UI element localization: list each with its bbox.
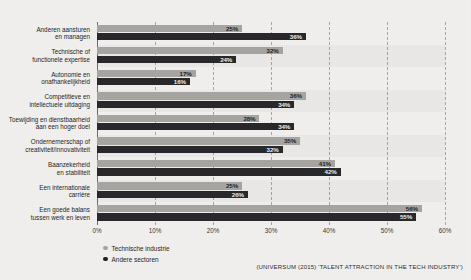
plot-area: 25%36%32%24%17%16%36%34%28%34%35%32%41%4… <box>97 22 445 225</box>
category-label-line: tussen werk en leven <box>31 214 90 222</box>
category-label: Technische offunctionele expertise <box>0 45 93 68</box>
category-label: Een internationalecarrière <box>0 180 93 203</box>
category-label-line: en managen <box>55 33 90 41</box>
legend-swatch-icon <box>103 246 108 251</box>
source-citation: (UNIVERSUM (2015) 'TALENT ATTRACTION IN … <box>256 264 463 270</box>
bar-value-label: 24% <box>220 56 232 63</box>
x-tick-label: 0% <box>92 227 101 234</box>
category-label-line: Competitieve en <box>44 93 90 101</box>
category-label-line: onafhankelijkheid <box>41 78 90 86</box>
category-label-line: Ondernemerschap of <box>31 138 90 146</box>
bar-value-label: 34% <box>278 101 290 108</box>
category-label: Anderen aansturenen managen <box>0 22 93 45</box>
bar-light <box>97 137 300 144</box>
bar-value-label: 17% <box>180 70 192 77</box>
category-label-line: Technische of <box>51 48 90 56</box>
bar-value-label: 36% <box>290 92 302 99</box>
category-label-line: Een internationale <box>39 184 90 192</box>
bar-rows: 25%36%32%24%17%16%36%34%28%34%35%32%41%4… <box>97 22 445 225</box>
category-label-line: aan een hoger doel <box>36 123 90 131</box>
x-tick-label: 10% <box>149 227 162 234</box>
bar-value-label: 32% <box>267 47 279 54</box>
gridline-60 <box>445 22 446 225</box>
category-label: Baanzekerheiden stabiliteit <box>0 157 93 180</box>
chart-legend: Technische industrieAndere sectoren <box>103 243 170 265</box>
bar-row: 25%26% <box>97 180 445 203</box>
bar-dark <box>97 168 341 175</box>
bar-light <box>97 182 242 189</box>
x-tick-label: 20% <box>207 227 220 234</box>
category-label: Competitieve enintellectuele uitdaging <box>0 90 93 113</box>
bar-value-label: 25% <box>226 182 238 189</box>
bar-row: 56%55% <box>97 202 445 225</box>
bar-light <box>97 160 335 167</box>
bar-value-label: 56% <box>406 205 418 212</box>
bar-row: 25%36% <box>97 22 445 45</box>
bar-value-label: 26% <box>232 191 244 198</box>
bar-light <box>97 115 259 122</box>
x-tick-label: 40% <box>323 227 336 234</box>
bar-light <box>97 92 306 99</box>
x-tick-label: 60% <box>439 227 452 234</box>
legend-item[interactable]: Technische industrie <box>103 243 170 253</box>
bar-value-label: 25% <box>226 25 238 32</box>
legend-swatch-icon <box>103 257 108 262</box>
legend-item[interactable]: Andere sectoren <box>103 254 170 264</box>
bar-light <box>97 47 283 54</box>
bar-value-label: 32% <box>267 146 279 153</box>
bar-chart: Anderen aansturenen managenTechnische of… <box>0 0 471 280</box>
category-label: Ondernemerschap ofcreativiteit/innovativ… <box>0 135 93 158</box>
bar-value-label: 41% <box>319 160 331 167</box>
category-label-line: intellectuele uitdaging <box>29 101 90 109</box>
x-tick-label: 30% <box>265 227 278 234</box>
category-label-line: Toewijding en dienstbaarheid <box>9 116 90 124</box>
bar-dark <box>97 213 416 220</box>
category-axis-labels: Anderen aansturenen managenTechnische of… <box>0 22 93 225</box>
bar-dark <box>97 33 306 40</box>
category-label-line: Autonomie en <box>51 71 90 79</box>
bar-value-label: 28% <box>243 115 255 122</box>
bar-row: 35%32% <box>97 135 445 158</box>
bar-value-label: 36% <box>290 33 302 40</box>
bar-row: 32%24% <box>97 45 445 68</box>
bar-row: 36%34% <box>97 90 445 113</box>
bar-dark <box>97 56 236 63</box>
category-label-line: Een goede balans <box>39 206 90 214</box>
category-label-line: carrière <box>69 191 90 199</box>
bar-dark <box>97 191 248 198</box>
legend-label: Technische industrie <box>112 245 170 252</box>
x-tick-label: 50% <box>381 227 394 234</box>
x-axis-ticks: 0%10%20%30%40%50%60% <box>97 227 445 239</box>
category-label: Een goede balanstussen werk en leven <box>0 202 93 225</box>
bar-row: 41%42% <box>97 157 445 180</box>
bar-dark <box>97 146 283 153</box>
bar-value-label: 34% <box>278 123 290 130</box>
legend-label: Andere sectoren <box>112 256 159 263</box>
bar-dark <box>97 101 294 108</box>
bar-light <box>97 205 422 212</box>
category-label-line: en stabiliteit <box>57 169 90 177</box>
category-label: Toewijding en dienstbaarheidaan een hoge… <box>0 112 93 135</box>
category-label-line: creativiteit/innovativiteit <box>25 146 90 154</box>
bar-value-label: 35% <box>284 137 296 144</box>
bar-light <box>97 25 242 32</box>
bar-row: 28%34% <box>97 112 445 135</box>
category-label-line: functionele expertise <box>32 56 90 64</box>
bar-row: 17%16% <box>97 67 445 90</box>
bar-dark <box>97 123 294 130</box>
bar-value-label: 55% <box>400 213 412 220</box>
bar-value-label: 16% <box>174 78 186 85</box>
category-label: Autonomie enonafhankelijkheid <box>0 67 93 90</box>
category-label-line: Baanzekerheid <box>48 161 90 169</box>
category-label-line: Anderen aansturen <box>36 26 90 34</box>
bar-value-label: 42% <box>325 168 337 175</box>
